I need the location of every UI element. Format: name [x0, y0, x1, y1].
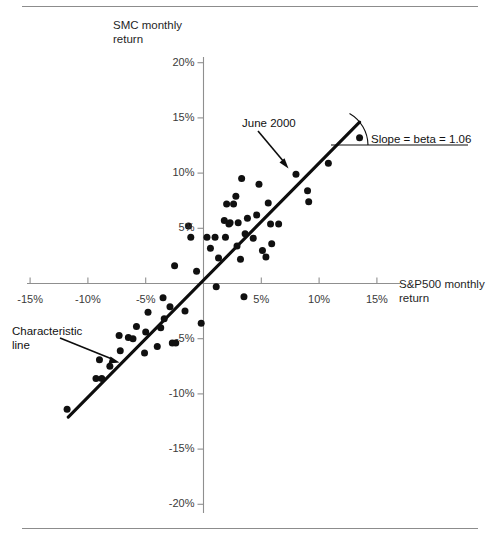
data-point	[242, 230, 249, 237]
data-point	[171, 262, 178, 269]
y-tick-label: 15%	[156, 111, 195, 123]
data-point	[161, 315, 168, 322]
data-point	[223, 201, 230, 208]
slope-annotation: Slope = beta = 1.06	[371, 132, 471, 146]
data-point	[253, 212, 260, 219]
data-point	[187, 234, 194, 241]
data-point	[106, 363, 113, 370]
characteristic-line-group	[68, 122, 359, 417]
data-point	[250, 235, 257, 242]
scatter-plot-canvas	[0, 0, 489, 537]
data-point	[268, 240, 275, 247]
data-point	[213, 283, 220, 290]
data-point	[193, 268, 200, 275]
data-point	[238, 175, 245, 182]
data-point	[117, 347, 124, 354]
data-point	[222, 234, 229, 241]
data-points-group	[64, 134, 363, 413]
data-point	[262, 254, 269, 261]
characteristic-line	[68, 122, 359, 417]
figure-container: SMC monthly return S&P500 monthly return…	[0, 0, 489, 537]
data-point	[98, 375, 105, 382]
data-point	[265, 199, 272, 206]
y-tick-label: -10%	[156, 387, 195, 399]
data-point	[292, 171, 299, 178]
data-point	[244, 215, 251, 222]
y-tick-label: -5%	[156, 332, 195, 344]
data-point	[237, 256, 244, 263]
data-point	[234, 242, 241, 249]
characteristic-line-annotation: Characteristic line	[12, 324, 82, 352]
y-tick-label: 5%	[156, 221, 195, 233]
x-axis-title: S&P500 monthly return	[399, 277, 485, 305]
data-point	[255, 181, 262, 188]
data-point	[215, 255, 222, 262]
data-point	[305, 198, 312, 205]
data-point	[116, 332, 123, 339]
data-point	[198, 320, 205, 327]
data-point	[235, 219, 242, 226]
x-tick-label: 15%	[352, 293, 402, 305]
data-point	[267, 220, 274, 227]
data-point	[232, 193, 239, 200]
y-axis-title: SMC monthly return	[113, 18, 182, 46]
data-point	[141, 350, 148, 357]
data-point	[64, 406, 71, 413]
y-tick-label: -15%	[156, 442, 195, 454]
x-tick-label: -5%	[121, 293, 171, 305]
june-2000-annotation: June 2000	[242, 116, 296, 130]
data-point	[227, 219, 234, 226]
data-point	[275, 220, 282, 227]
data-point	[230, 201, 237, 208]
x-tick-label: 10%	[294, 293, 344, 305]
data-point	[157, 324, 164, 331]
data-point	[356, 134, 363, 141]
data-point	[133, 323, 140, 330]
data-point	[325, 160, 332, 167]
june-2000-arrow	[258, 131, 289, 169]
data-point	[96, 356, 103, 363]
x-tick-label: -10%	[63, 293, 113, 305]
y-tick-label: 20%	[156, 56, 195, 68]
data-point	[182, 308, 189, 315]
data-point	[129, 335, 136, 342]
data-point	[145, 309, 152, 316]
data-point	[207, 245, 214, 252]
data-point	[203, 234, 210, 241]
y-tick-label: 10%	[156, 166, 195, 178]
x-tick-label: 5%	[236, 293, 286, 305]
data-point	[304, 187, 311, 194]
data-point	[212, 234, 219, 241]
data-point	[154, 343, 161, 350]
x-tick-label: -15%	[5, 293, 55, 305]
y-tick-label: -20%	[156, 497, 195, 509]
data-point	[142, 329, 149, 336]
data-point	[259, 247, 266, 254]
